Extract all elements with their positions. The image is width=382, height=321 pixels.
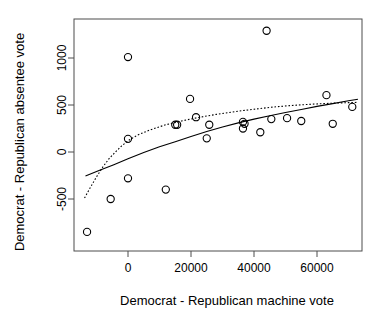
y-tick-label: 500	[55, 95, 69, 115]
scatter-plot-figure: 0200004000060000 -50005001000 Democrat -…	[0, 0, 382, 321]
x-tick-label: 40000	[237, 261, 271, 275]
x-tick-label: 20000	[174, 261, 208, 275]
y-tick-label: 1000	[55, 44, 69, 71]
plot-canvas: 0200004000060000 -50005001000 Democrat -…	[0, 0, 382, 321]
x-tick-label: 60000	[300, 261, 334, 275]
y-axis-title: Democrat - Republican absentee vote	[12, 33, 27, 251]
y-tick-label: 0	[55, 148, 69, 155]
x-axis-title: Democrat - Republican machine vote	[120, 293, 334, 308]
x-tick-label: 0	[125, 261, 132, 275]
y-tick-label: -500	[55, 187, 69, 211]
